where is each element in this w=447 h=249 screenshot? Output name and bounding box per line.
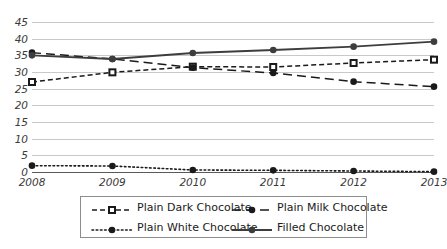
legend-item[interactable]: Filled Chocolate xyxy=(229,217,362,237)
data-point-marker[interactable] xyxy=(431,38,438,45)
y-axis-tick-label: 15 xyxy=(2,117,28,127)
y-axis-tick-label: 30 xyxy=(2,67,28,77)
data-point-marker[interactable] xyxy=(431,83,438,90)
data-point-marker[interactable] xyxy=(109,163,116,170)
x-axis-tick-labels: 200820092010201120122013 xyxy=(32,176,434,192)
data-point-marker[interactable] xyxy=(29,79,35,85)
y-axis-tick-label: 25 xyxy=(2,84,28,94)
x-axis-tick-label: 2011 xyxy=(260,176,287,188)
data-point-marker[interactable] xyxy=(431,57,437,63)
legend-swatch-graphic xyxy=(231,204,273,216)
data-point-marker[interactable] xyxy=(270,167,277,174)
legend-label: Filled Chocolate xyxy=(277,221,364,234)
data-point-marker[interactable] xyxy=(270,64,276,70)
y-axis-tick-label: 40 xyxy=(2,34,28,44)
data-point-marker[interactable] xyxy=(431,168,438,175)
plot-area xyxy=(32,22,434,172)
y-axis-tick-label: 35 xyxy=(2,50,28,60)
data-point-marker[interactable] xyxy=(190,64,197,71)
data-point-marker[interactable] xyxy=(270,70,277,77)
legend-item[interactable]: Plain Dark Chocolate xyxy=(85,197,229,217)
legend-swatch-filled-chocolate xyxy=(231,221,273,233)
data-point-marker[interactable] xyxy=(270,47,277,54)
series-line-filled-chocolate xyxy=(32,42,434,59)
series-layer xyxy=(32,22,434,172)
data-point-marker[interactable] xyxy=(109,56,116,63)
legend-swatch-plain-dark-chocolate xyxy=(91,201,133,213)
legend-swatch-graphic xyxy=(91,224,133,236)
data-point-marker[interactable] xyxy=(190,50,197,57)
legend-swatch-plain-milk-chocolate xyxy=(231,201,273,213)
legend-swatch-graphic xyxy=(91,204,133,216)
data-point-marker[interactable] xyxy=(29,162,36,169)
series-line-plain-white-chocolate xyxy=(32,166,434,172)
y-axis-tick-label: 20 xyxy=(2,100,28,110)
chart-legend: Plain Dark Chocolate Plain Milk Chocolat… xyxy=(80,196,367,238)
y-axis-tick-label: 10 xyxy=(2,134,28,144)
y-axis-tick-label: 5 xyxy=(2,150,28,160)
legend-item[interactable]: Plain Milk Chocolate xyxy=(229,197,362,217)
data-point-marker[interactable] xyxy=(350,43,357,50)
legend-swatch-graphic xyxy=(231,224,273,236)
x-axis-tick-label: 2008 xyxy=(19,176,46,188)
x-axis-tick-label: 2013 xyxy=(421,176,447,188)
data-point-marker[interactable] xyxy=(350,78,357,85)
data-point-marker[interactable] xyxy=(350,168,357,175)
gridline xyxy=(32,172,434,173)
x-axis-tick-label: 2010 xyxy=(179,176,206,188)
data-point-marker[interactable] xyxy=(190,167,197,174)
legend-item[interactable]: Plain White Chocolate xyxy=(85,217,229,237)
data-point-marker[interactable] xyxy=(109,69,115,75)
legend-swatch-plain-white-chocolate xyxy=(91,221,133,233)
data-point-marker[interactable] xyxy=(29,52,36,59)
y-axis-tick-label: 45 xyxy=(2,17,28,27)
legend-label: Plain Milk Chocolate xyxy=(277,201,387,214)
x-axis-tick-label: 2009 xyxy=(99,176,126,188)
x-axis-tick-label: 2012 xyxy=(340,176,367,188)
data-point-marker[interactable] xyxy=(351,60,357,66)
y-axis-tick-labels: 051015202530354045 xyxy=(0,22,28,172)
